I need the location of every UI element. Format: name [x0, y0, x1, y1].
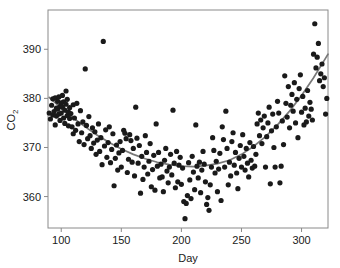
data-point [233, 150, 238, 155]
data-point [162, 158, 167, 163]
data-point [152, 188, 157, 193]
data-point [224, 146, 229, 151]
data-point [128, 138, 133, 143]
data-point [298, 72, 303, 77]
data-point [288, 103, 293, 108]
data-point [199, 167, 204, 172]
data-point [197, 160, 202, 165]
data-point [222, 165, 227, 170]
data-point [238, 143, 243, 148]
data-point [228, 173, 233, 178]
data-point [256, 111, 261, 116]
data-point [251, 144, 256, 149]
data-point [160, 174, 165, 179]
data-point [89, 146, 94, 151]
data-point [87, 133, 92, 138]
data-point [75, 121, 80, 126]
data-point [303, 106, 308, 111]
data-point [130, 160, 135, 165]
data-point [210, 135, 215, 140]
data-point [321, 84, 326, 89]
data-point [145, 171, 150, 176]
data-point [300, 94, 305, 99]
data-point [187, 177, 192, 182]
data-point [190, 154, 195, 159]
data-point [236, 156, 241, 161]
x-tick-label: 150 [112, 234, 130, 246]
data-point [193, 122, 198, 127]
data-point [287, 125, 292, 130]
data-point [235, 186, 240, 191]
data-point [124, 136, 129, 141]
data-point [73, 128, 78, 133]
data-point [295, 135, 300, 140]
data-point [304, 119, 309, 124]
data-point [170, 108, 175, 113]
data-point [196, 175, 201, 180]
data-point [273, 165, 278, 170]
data-point [294, 97, 299, 102]
data-point [322, 75, 327, 80]
data-point [143, 133, 148, 138]
data-point [144, 150, 149, 155]
data-point [275, 99, 280, 104]
data-point [142, 165, 147, 170]
data-point [319, 61, 324, 66]
data-point [291, 109, 296, 114]
data-point [83, 66, 88, 71]
data-point [208, 182, 213, 187]
data-point [68, 111, 73, 116]
data-point [131, 146, 136, 151]
data-point [259, 141, 264, 146]
data-point [234, 170, 239, 175]
data-point [241, 154, 246, 159]
data-point [206, 208, 211, 213]
data-point [109, 147, 114, 152]
data-point [163, 146, 168, 151]
data-point [186, 160, 191, 165]
data-point [146, 159, 151, 164]
data-point [277, 180, 282, 185]
data-point [138, 191, 143, 196]
data-point [253, 152, 258, 157]
data-point [200, 149, 205, 154]
data-point [280, 118, 285, 123]
data-point [156, 150, 161, 155]
data-point [150, 167, 155, 172]
data-point [97, 149, 102, 154]
data-point [174, 149, 179, 154]
data-point [133, 105, 138, 110]
data-point [242, 167, 247, 172]
data-point [108, 160, 113, 165]
data-point [119, 165, 124, 170]
data-point [166, 180, 171, 185]
data-point [65, 97, 70, 102]
data-point [285, 114, 290, 119]
data-point [60, 93, 65, 98]
data-point [81, 142, 86, 147]
data-point [269, 128, 274, 133]
x-axis-title: Day [178, 252, 198, 264]
co2-scatter-chart: 360370380390 100150200250300 Day CO2 [0, 0, 340, 268]
data-point [86, 114, 91, 119]
data-point [297, 86, 302, 91]
data-point [258, 117, 263, 122]
data-point [255, 121, 260, 126]
data-point [230, 130, 235, 135]
x-tick-label: 200 [172, 234, 190, 246]
data-point [220, 124, 225, 129]
data-point [74, 101, 79, 106]
data-point [140, 177, 145, 182]
data-point [307, 100, 312, 105]
data-point [310, 117, 315, 122]
data-point [268, 181, 273, 186]
data-point [246, 174, 251, 179]
data-point [274, 124, 279, 129]
data-point [139, 154, 144, 159]
data-point [53, 122, 58, 127]
data-point [281, 142, 286, 147]
data-point [324, 96, 329, 101]
data-point [132, 173, 137, 178]
data-point [104, 155, 109, 160]
data-point [158, 162, 163, 167]
